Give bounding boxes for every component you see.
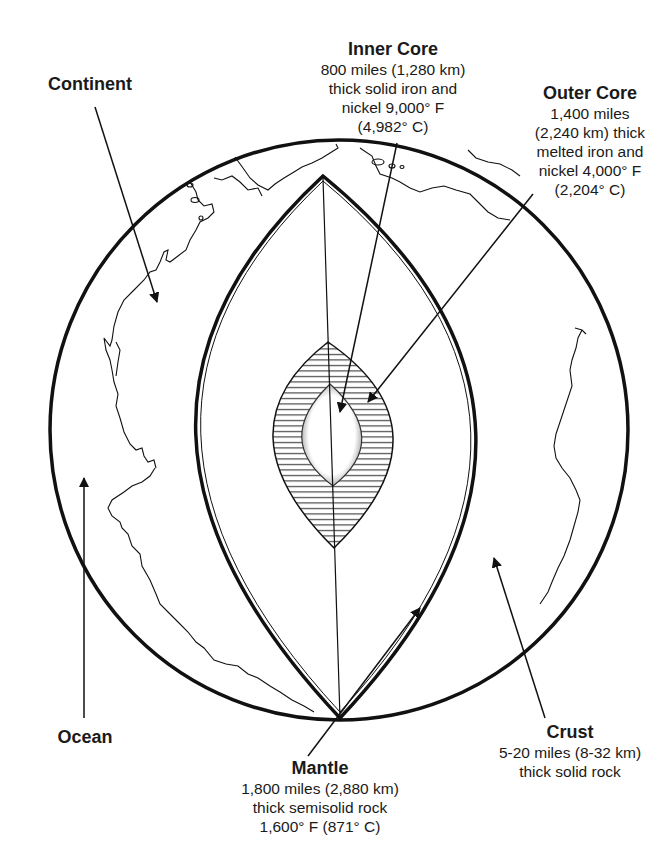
- crust-label: Crust 5-20 miles (8-32 km) thick solid r…: [480, 721, 660, 781]
- inner-core-title: Inner Core: [305, 38, 481, 60]
- continent-title: Continent: [30, 73, 150, 95]
- mantle-line-2: thick semisolid rock: [210, 798, 430, 817]
- inner-core-line-4: (4,982° C): [305, 117, 481, 136]
- inner-core-label: Inner Core 800 miles (1,280 km) thick so…: [305, 38, 481, 136]
- outer-core-line-5: (2,204° C): [520, 180, 660, 199]
- mantle-title: Mantle: [210, 757, 430, 779]
- crust-title: Crust: [480, 721, 660, 743]
- outer-core-line-1: 1,400 miles: [520, 104, 660, 123]
- mantle-line-3: 1,600° F (871° C): [210, 817, 430, 836]
- outer-core-line-2: (2,240 km) thick: [520, 123, 660, 142]
- inner-core-line-3: nickel 9,000° F: [305, 98, 481, 117]
- continent-label: Continent: [30, 73, 150, 95]
- inner-core-line-1: 800 miles (1,280 km): [305, 60, 481, 79]
- ocean-title: Ocean: [30, 726, 140, 748]
- mantle-label: Mantle 1,800 miles (2,880 km) thick semi…: [210, 757, 430, 836]
- ocean-label: Ocean: [30, 726, 140, 748]
- crust-line-2: thick solid rock: [480, 762, 660, 781]
- outer-core-title: Outer Core: [520, 82, 660, 104]
- crust-line-1: 5-20 miles (8-32 km): [480, 743, 660, 762]
- outer-core-line-3: melted iron and: [520, 142, 660, 161]
- inner-core-line-2: thick solid iron and: [305, 79, 481, 98]
- mantle-line-1: 1,800 miles (2,880 km): [210, 779, 430, 798]
- outer-core-line-4: nickel 4,000° F: [520, 161, 660, 180]
- outer-core-label: Outer Core 1,400 miles (2,240 km) thick …: [520, 82, 660, 199]
